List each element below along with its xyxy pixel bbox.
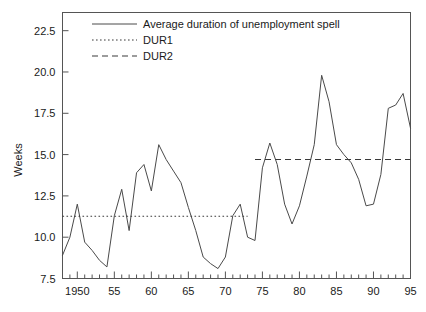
x-tick-label: 75	[256, 285, 268, 297]
y-tick-label: 20.0	[34, 66, 55, 78]
y-tick-label: 22.5	[34, 25, 55, 37]
x-tick-label: 55	[108, 285, 120, 297]
x-tick-label: 1950	[65, 285, 89, 297]
y-tick-label: 12.5	[34, 190, 55, 202]
x-tick-label: 85	[330, 285, 342, 297]
legend-label: Average duration of unemployment spell	[143, 18, 340, 30]
chart-figure: 7.510.012.515.017.520.022.5 195055606570…	[0, 0, 426, 312]
y-axis-title: Weeks	[12, 143, 24, 177]
y-tick-label: 10.0	[34, 231, 55, 243]
y-tick-label: 15.0	[34, 149, 55, 161]
y-tick-label: 17.5	[34, 107, 55, 119]
x-tick-label: 95	[404, 285, 416, 297]
legend-label: DUR1	[143, 34, 173, 46]
x-tick-label: 70	[219, 285, 231, 297]
line-chart: 7.510.012.515.017.520.022.5 195055606570…	[0, 0, 426, 312]
legend-label: DUR2	[143, 50, 173, 62]
y-tick-label: 7.5	[40, 273, 55, 285]
x-tick-label: 60	[145, 285, 157, 297]
x-tick-label: 65	[182, 285, 194, 297]
x-tick-label: 80	[293, 285, 305, 297]
x-tick-label: 90	[367, 285, 379, 297]
